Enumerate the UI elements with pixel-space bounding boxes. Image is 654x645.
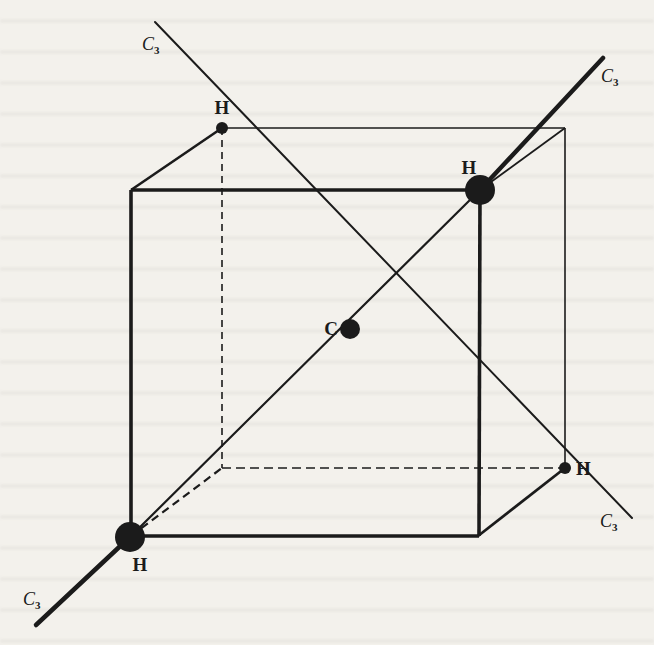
label-c3-upper-right: C3 xyxy=(601,66,619,88)
c3-axis-lower-left-to-upper-right-inner xyxy=(131,190,480,536)
hydrogen-atom-front-top-right xyxy=(465,175,495,205)
atoms xyxy=(115,122,571,552)
label-c-carbon: C xyxy=(324,318,338,339)
c3-axis-upper-right-stub xyxy=(480,58,603,190)
atom-labels: H H H H C xyxy=(133,97,591,575)
front-right-edge xyxy=(479,190,480,536)
c3-subscript: 3 xyxy=(154,44,160,56)
carbon-atom xyxy=(340,319,360,339)
page: H H H H C C3 C3 C3 C3 xyxy=(0,0,654,645)
depth-edge-top-left xyxy=(131,128,222,190)
label-h-back-top-left: H xyxy=(215,97,230,118)
depth-edge-top-right xyxy=(480,128,565,190)
hydrogen-atom-back-top-left xyxy=(216,122,228,134)
c3-subscript: 3 xyxy=(35,599,41,611)
label-c3-upper-left: C3 xyxy=(142,34,160,56)
label-h-front-top-right: H xyxy=(462,157,477,178)
c3-axis-lower-left-stub xyxy=(36,536,131,625)
c3-axis-labels: C3 C3 C3 C3 xyxy=(23,34,619,611)
label-c3-lower-left: C3 xyxy=(23,589,41,611)
c3-subscript: 3 xyxy=(613,76,619,88)
c3-subscript: 3 xyxy=(612,521,618,533)
label-h-front-bottom-left: H xyxy=(133,554,148,575)
label-c3-lower-right: C3 xyxy=(600,511,618,533)
hydrogen-atom-front-bottom-left xyxy=(115,522,145,552)
depth-edge-bottom-left-hidden xyxy=(131,468,222,536)
label-h-back-bottom-right: H xyxy=(576,458,591,479)
methane-cube-diagram: H H H H C C3 C3 C3 C3 xyxy=(0,0,654,645)
cube-back-face xyxy=(222,128,565,468)
depth-edge-bottom-right xyxy=(478,468,565,536)
hydrogen-atom-back-bottom-right xyxy=(559,462,571,474)
